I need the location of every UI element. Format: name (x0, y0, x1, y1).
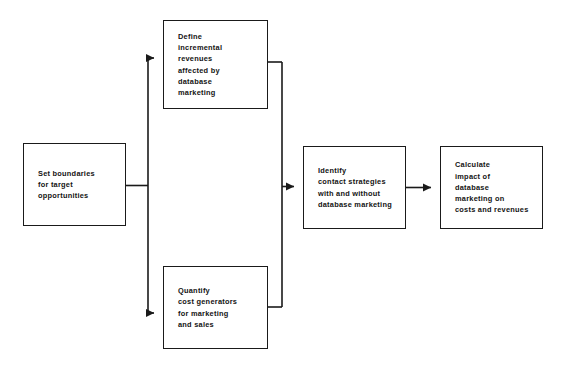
flowchart-canvas: Set boundaries for target opportunities … (0, 0, 567, 370)
node-identify-contact[interactable]: Identify contact strategies with and wit… (303, 146, 406, 229)
node-set-boundaries-label: Set boundaries for target opportunities (24, 168, 100, 202)
node-set-boundaries[interactable]: Set boundaries for target opportunities (23, 143, 126, 226)
node-calculate-impact[interactable]: Calculate impact of database marketing o… (440, 146, 543, 229)
node-calculate-impact-label: Calculate impact of database marketing o… (441, 159, 534, 215)
node-define-revenues[interactable]: Define incremental revenues affected by … (163, 20, 268, 109)
node-define-revenues-label: Define incremental revenues affected by … (164, 31, 227, 99)
node-quantify-costs-label: Quantify cost generators for marketing a… (164, 285, 242, 330)
node-identify-contact-label: Identify contact strategies with and wit… (304, 165, 397, 210)
node-quantify-costs[interactable]: Quantify cost generators for marketing a… (163, 266, 268, 349)
